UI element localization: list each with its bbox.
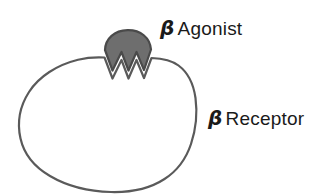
label-beta-agonist: βAgonist [160, 18, 242, 38]
beta-symbol-agonist: β [160, 16, 178, 40]
receptor-text: Receptor [226, 108, 305, 129]
agonist-text: Agonist [178, 18, 243, 39]
beta-symbol-receptor: β [208, 106, 226, 130]
diagram-canvas: βAgonist βReceptor [0, 0, 334, 196]
beta-agonist-shape [105, 30, 151, 70]
label-beta-receptor: βReceptor [208, 108, 304, 128]
beta-receptor-outline [19, 57, 196, 192]
